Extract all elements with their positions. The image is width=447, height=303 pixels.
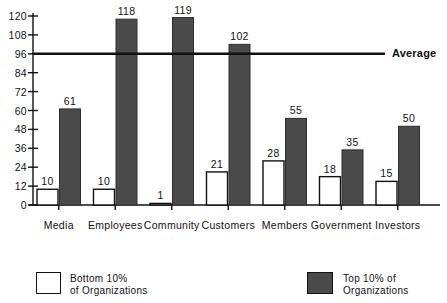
bar-bottom10-employees <box>94 189 115 205</box>
legend-swatch-bottom <box>36 272 61 294</box>
category-label-investors: Investors <box>362 220 435 231</box>
y-axis-tick-label-72: 72 <box>0 87 27 98</box>
legend-label-top-line1: Top 10% of <box>343 273 396 285</box>
value-label-bottom10-customers: 21 <box>197 159 237 170</box>
y-axis-tick-label-120: 120 <box>0 11 27 22</box>
value-label-bottom10-government: 18 <box>310 164 350 175</box>
y-axis-tick-label-12: 12 <box>0 181 27 192</box>
value-label-top10-members: 55 <box>276 105 316 116</box>
y-axis-tick-label-108: 108 <box>0 30 27 41</box>
y-axis-tick-label-48: 48 <box>0 124 27 135</box>
bar-bottom10-customers <box>207 172 228 205</box>
legend-label-bottom-line2: of Organizations <box>70 285 148 297</box>
value-label-top10-employees: 118 <box>107 6 147 17</box>
bar-bottom10-government <box>320 177 341 205</box>
value-label-top10-government: 35 <box>333 137 373 148</box>
bar-top10-customers <box>229 44 250 205</box>
bar-top10-investors <box>399 126 420 205</box>
value-label-top10-media: 61 <box>50 96 90 107</box>
value-label-bottom10-investors: 15 <box>367 168 407 179</box>
bar-top10-community <box>173 18 194 205</box>
y-axis-tick-label-0: 0 <box>0 200 27 211</box>
value-label-bottom10-media: 10 <box>28 176 68 187</box>
value-label-top10-customers: 102 <box>220 31 260 42</box>
legend-label-top-line2: Organizations <box>343 285 409 297</box>
value-label-bottom10-employees: 10 <box>84 176 124 187</box>
value-label-bottom10-members: 28 <box>254 148 294 159</box>
bar-bottom10-community <box>150 203 171 205</box>
bar-bottom10-media <box>37 189 58 205</box>
y-axis-tick-label-36: 36 <box>0 143 27 154</box>
value-label-top10-investors: 50 <box>389 113 429 124</box>
y-axis-tick-label-84: 84 <box>0 68 27 79</box>
bar-top10-media <box>60 109 81 205</box>
y-axis-tick-label-96: 96 <box>0 49 27 60</box>
chart-canvas <box>0 0 447 303</box>
bar-chart: 01224364860728496108120 1061101181119211… <box>0 0 447 303</box>
y-axis-tick-label-24: 24 <box>0 162 27 173</box>
y-axis-tick-label-60: 60 <box>0 106 27 117</box>
average-line-label: Average <box>392 48 436 59</box>
bar-top10-members <box>286 118 307 205</box>
value-label-top10-community: 119 <box>163 5 203 16</box>
legend-label-bottom-line1: Bottom 10% <box>70 273 127 285</box>
bar-top10-government <box>342 150 363 205</box>
bar-bottom10-members <box>263 161 284 205</box>
bar-bottom10-investors <box>376 181 397 205</box>
legend-swatch-top <box>307 272 333 294</box>
value-label-bottom10-community: 1 <box>141 190 181 201</box>
